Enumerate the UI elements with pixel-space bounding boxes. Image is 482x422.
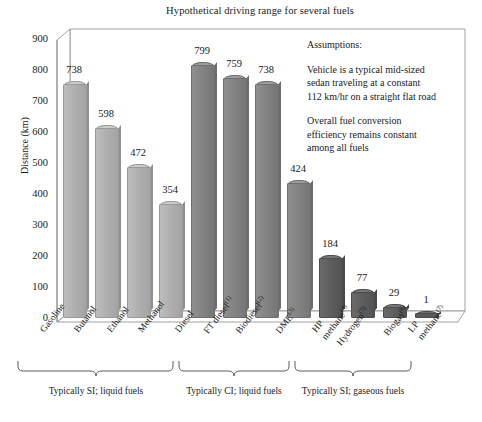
- bar-methanol[interactable]: 354: [159, 206, 185, 318]
- assumptions-heading: Assumptions:: [307, 38, 472, 52]
- bar-value-diesel: 799: [182, 45, 222, 56]
- assumptions-paragraph-2: Overall fuel conversion efficiency remai…: [307, 114, 472, 155]
- bar-value-hydrogen: 77: [342, 272, 382, 283]
- bar-value-biodiesel: 738: [246, 64, 286, 75]
- bar-diesel[interactable]: 799: [191, 67, 217, 318]
- assumptions-p1-line3: 112 km/hr on a straight flat road: [307, 90, 472, 104]
- bar-gasoline[interactable]: 738: [63, 86, 89, 318]
- assumptions-p2-line1: Overall fuel conversion: [307, 114, 472, 128]
- bar-value-hp-methane: 184: [310, 238, 350, 249]
- chart-figure: Hypothetical driving range for several f…: [0, 0, 482, 422]
- bar-value-methanol: 354: [150, 184, 190, 195]
- bar-dme[interactable]: 424: [287, 185, 313, 318]
- assumptions-p2-line3: among all fuels: [307, 141, 472, 155]
- group-caption-si-gaseous: Typically SI; gaseous fuels: [288, 386, 418, 396]
- bar-value-butanol: 598: [86, 108, 126, 119]
- assumptions-p2-line2: efficiency remains constant: [307, 128, 472, 142]
- bar-value-ethanol: 472: [118, 147, 158, 158]
- group-caption-ci-liquid: Typically CI; liquid fuels: [174, 386, 294, 396]
- assumptions-p1-line1: Vehicle is a typical mid-sized: [307, 63, 472, 77]
- assumptions-p1-line2: sedan traveling at a constant: [307, 76, 472, 90]
- bar-value-gasoline: 738: [54, 64, 94, 75]
- assumptions-block: Assumptions: Vehicle is a typical mid-si…: [307, 38, 472, 166]
- group-caption-si-liquid: Typically SI; liquid fuels: [36, 386, 156, 396]
- bar-butanol[interactable]: 598: [95, 130, 121, 318]
- assumptions-paragraph-1: Vehicle is a typical mid-sized sedan tra…: [307, 63, 472, 104]
- bar-biodiesel[interactable]: 738: [255, 86, 281, 318]
- bar-ft-diesel[interactable]: 759: [223, 80, 249, 318]
